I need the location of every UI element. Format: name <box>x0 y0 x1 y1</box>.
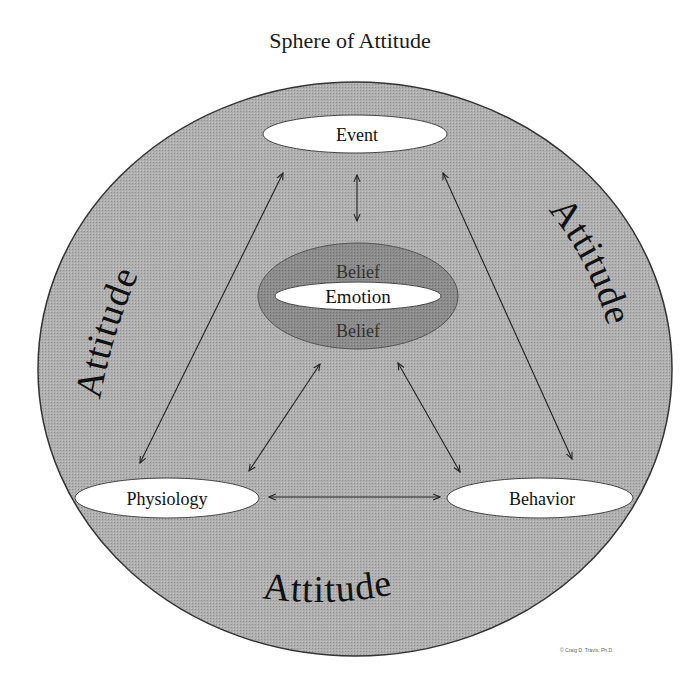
emotion-label: Emotion <box>325 286 391 307</box>
event-label: Event <box>336 125 378 145</box>
physiology-label: Physiology <box>126 489 207 509</box>
attitude-label-bottom: Attitude <box>261 561 395 610</box>
behavior-label: Behavior <box>509 489 575 509</box>
copyright-text: © Craig D. Travis, Ph.D. <box>560 647 650 653</box>
belief-bottom-label: Belief <box>336 321 380 341</box>
belief-top-label: Belief <box>336 262 380 282</box>
sphere-diagram: Event Belief Emotion Belief Physiology B… <box>0 0 700 693</box>
